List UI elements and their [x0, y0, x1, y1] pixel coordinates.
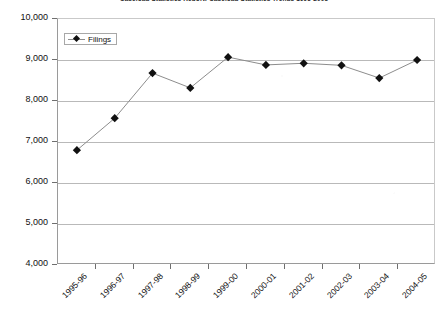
- x-axis-tick: [246, 264, 247, 269]
- y-axis-tick: [52, 59, 57, 60]
- y-axis-label: 10,000: [0, 12, 48, 22]
- x-axis-tick: [359, 264, 360, 269]
- y-axis-label: 6,000: [0, 176, 48, 186]
- x-axis-tick: [95, 264, 96, 269]
- y-axis-tick: [52, 100, 57, 101]
- plot-area: [57, 18, 435, 264]
- x-axis-tick: [284, 264, 285, 269]
- data-point-marker: [337, 61, 345, 69]
- y-axis-label: 9,000: [0, 53, 48, 63]
- y-axis-tick: [52, 264, 57, 265]
- chart-container: Caseload Statistics Report: Caseload Sta…: [0, 0, 448, 317]
- legend-label-filings: Filings: [88, 35, 111, 44]
- y-axis-label: 7,000: [0, 135, 48, 145]
- chart-title: Caseload Statistics Report: Caseload Sta…: [0, 0, 448, 1]
- data-point-marker: [262, 61, 270, 69]
- series-line-filings: [77, 57, 417, 150]
- x-axis-label: 1995-96: [45, 271, 89, 315]
- data-point-marker: [413, 56, 421, 64]
- data-point-marker: [375, 74, 383, 82]
- x-axis-tick: [397, 264, 398, 269]
- x-axis-label: 2000-01: [234, 271, 278, 315]
- y-axis-label: 8,000: [0, 94, 48, 104]
- data-point-marker: [300, 59, 308, 67]
- x-axis-tick: [170, 264, 171, 269]
- y-axis-label: 4,000: [0, 258, 48, 268]
- y-axis-tick: [52, 18, 57, 19]
- series-filings: [58, 19, 436, 265]
- legend-marker-icon: [68, 35, 85, 44]
- y-axis-tick: [52, 141, 57, 142]
- x-axis-tick: [208, 264, 209, 269]
- x-axis-label: 2004-05: [385, 271, 429, 315]
- y-axis-label: 5,000: [0, 217, 48, 227]
- chart-legend: Filings: [64, 33, 117, 45]
- y-axis-tick: [52, 182, 57, 183]
- y-axis-tick: [52, 223, 57, 224]
- x-axis-label: 1999-00: [196, 271, 240, 315]
- x-axis-tick: [133, 264, 134, 269]
- x-axis-tick: [322, 264, 323, 269]
